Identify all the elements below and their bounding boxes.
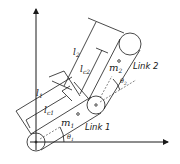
label-l2: l2 [73,47,80,58]
label-m2: m2 [109,62,122,74]
label-lc2: lc2 [80,64,90,75]
com-1 [77,113,80,116]
label-theta1: θ1 [67,133,74,142]
label-lc1: lc1 [44,105,54,116]
label-l1: l1 [36,88,43,99]
label-theta2: θ2 [120,77,127,86]
elbow-joint [87,96,105,114]
link-2-body [88,39,140,109]
elbow-joint-center [95,104,97,106]
theta-1-arc [60,127,64,142]
end-effector [119,33,141,55]
link-2-centerline [100,76,112,98]
link-2-reference [100,80,136,102]
link-1-centerline [40,127,60,139]
label-link1: Link 1 [85,122,111,132]
label-link2: Link 2 [133,61,159,71]
two-link-arm-diagram: l2 lc2 m2 Link 2 θ2 l1 lc1 m1 Link 1 θ1 [0,0,180,164]
label-m1: m1 [61,117,74,129]
